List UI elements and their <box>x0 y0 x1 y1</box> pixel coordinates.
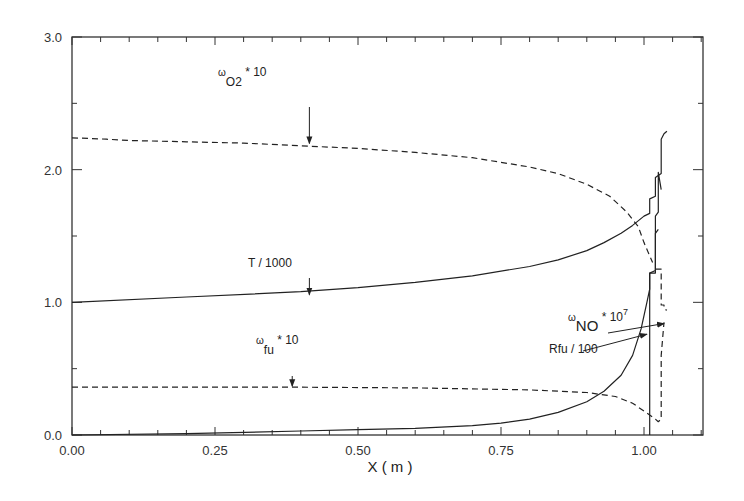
annotation-fu-subscript: fu <box>264 343 274 357</box>
x-axis-title: X ( m ) <box>368 458 413 475</box>
annotation-o2-suffix: * 10 <box>242 65 267 79</box>
y-axis-tick-labels: 0.01.02.03.0 <box>44 30 62 443</box>
y-tick-label: 1.0 <box>44 295 62 310</box>
annotation-o2-subscript: O2 <box>226 75 242 89</box>
series-line-omega-no-10-7 <box>650 172 662 435</box>
plot-frame <box>72 37 703 435</box>
x-axis-tick-labels: 0.000.250.500.751.00 <box>59 443 656 458</box>
annotation-no-base: ω <box>568 312 576 323</box>
annotations-layer: ωO2 * 10T / 1000ωfu * 10ωNO * 107Rfu / 1… <box>218 65 664 386</box>
y-tick-label: 3.0 <box>44 30 62 45</box>
annotation-t-label: T / 1000 <box>248 256 292 270</box>
annotation-fu-label: ωfu * 10 <box>256 333 299 357</box>
series-line-omega-o2-10 <box>72 138 653 263</box>
annotation-no-superscript: 7 <box>623 307 628 317</box>
annotation-no-label: ωNO * 107 <box>568 307 628 334</box>
annotation-no-suffix: * 10 <box>598 310 623 324</box>
y-tick-label: 2.0 <box>44 163 62 178</box>
x-tick-label: 0.00 <box>59 443 84 458</box>
x-tick-label: 0.50 <box>345 443 370 458</box>
chart: 0.000.250.500.751.00 0.01.02.03.0 ωO2 * … <box>0 0 744 501</box>
series-line-omega-o2-tail <box>655 269 667 310</box>
annotation-o2-base: ω <box>218 67 226 78</box>
y-axis-ticks <box>72 37 703 435</box>
x-tick-label: 0.25 <box>202 443 227 458</box>
annotation-fu-suffix: * 10 <box>274 333 299 347</box>
annotation-no-subscript: NO <box>576 317 599 334</box>
annotation-o2-label: ωO2 * 10 <box>218 65 267 89</box>
x-tick-label: 0.75 <box>488 443 513 458</box>
y-tick-label: 0.0 <box>44 428 62 443</box>
series-line-omega-fu-10 <box>72 322 664 422</box>
annotation-no-arrow <box>608 324 664 333</box>
annotation-fu-base: ω <box>256 335 264 346</box>
series-layer <box>72 131 667 435</box>
x-tick-label: 1.00 <box>631 443 656 458</box>
series-line-t-1000 <box>72 131 667 302</box>
x-axis-ticks <box>72 37 701 435</box>
series-line-rfu-100 <box>72 229 658 435</box>
